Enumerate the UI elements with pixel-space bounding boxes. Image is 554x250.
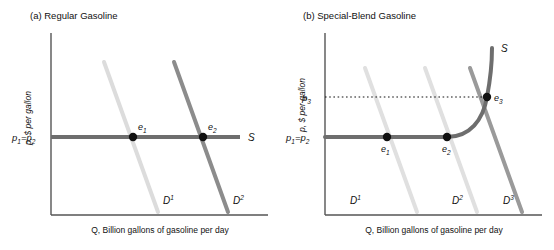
panel-b-demand-curve-d3	[470, 68, 522, 212]
panel-b-equilibrium-point-e2	[443, 133, 451, 141]
panel-b-title: (b) Special-Blend Gasoline	[303, 10, 416, 21]
panel-b-price-label-p1-p2: p1=p2	[285, 132, 310, 145]
panel-b-equilibrium-point-e3	[483, 93, 491, 101]
panel-b-supply-label-s: S	[501, 43, 508, 54]
panel-b-demand-curve-d2	[425, 68, 477, 212]
panel-b-demand-label-d1: D1	[350, 194, 361, 206]
panel-b-demand-curve-d1	[365, 68, 417, 212]
panel-b-equilibrium-label-e3: e3	[494, 93, 503, 105]
panel-b-demand-label-d2: D2	[452, 194, 463, 206]
panel-b-equilibrium-label-e2: e2	[442, 144, 451, 156]
panel-b-y-axis-label: p, $ per gallon	[297, 78, 307, 133]
panel-b-equilibrium-point-e1	[383, 133, 391, 141]
panel-b-equilibrium-label-e1: e1	[381, 144, 390, 156]
panel-b-demand-label-d3: D3	[503, 194, 514, 206]
panel-special-blend-gasoline: (b) Special-Blend Gasoline p, $ per gall…	[0, 0, 554, 250]
figure-container: (a) Regular Gasoline p, $ per gallon Q, …	[0, 0, 554, 250]
panel-b-x-axis-label: Q, Billion gallons of gasoline per day	[365, 225, 503, 235]
panel-b-supply-curve-s	[325, 48, 492, 137]
